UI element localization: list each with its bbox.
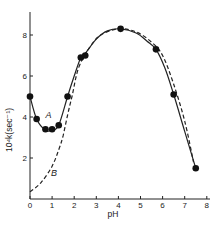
x-tick-label: 7 (182, 201, 187, 210)
ph-rate-chart: 012345678 2468 AB pH 10⁴k(sec⁻¹) (0, 0, 218, 228)
curve-a-line (30, 29, 196, 169)
data-point (153, 46, 160, 53)
y-tick-label: 4 (23, 113, 28, 122)
y-tick-label: 6 (23, 72, 28, 81)
curve-label-b: B (51, 168, 57, 178)
curve-b-dashed (30, 29, 194, 192)
data-point (64, 93, 71, 100)
curve-b-line (30, 29, 194, 192)
x-axis-label: pH (108, 209, 119, 219)
x-tick-label: 8 (205, 201, 210, 210)
x-tick-label: 1 (50, 201, 55, 210)
y-axis-label: 10⁴k(sec⁻¹) (4, 108, 14, 152)
data-point (117, 26, 124, 33)
curve-a-solid (30, 29, 196, 169)
data-point (192, 165, 199, 172)
data-point (27, 93, 34, 100)
data-point (42, 126, 49, 133)
x-tick-label: 6 (160, 201, 165, 210)
data-point (33, 116, 40, 123)
y-tick-label: 2 (23, 154, 28, 163)
data-point (49, 126, 56, 133)
data-point-markers (27, 26, 199, 172)
curve-labels: AB (44, 110, 57, 178)
data-point (55, 122, 62, 129)
x-tick-label: 3 (94, 201, 99, 210)
y-tick-label: 8 (23, 31, 28, 40)
data-point (82, 52, 89, 59)
curve-label-a: A (44, 110, 51, 120)
x-tick-label: 5 (138, 201, 143, 210)
x-tick-label: 0 (28, 201, 33, 210)
data-point (170, 91, 177, 98)
x-ticks: 012345678 (28, 196, 210, 210)
x-tick-label: 2 (72, 201, 77, 210)
